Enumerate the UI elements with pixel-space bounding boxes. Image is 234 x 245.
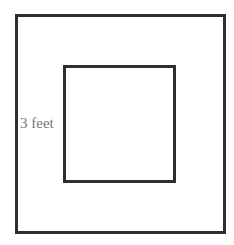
dimension-label: 3 feet <box>20 115 54 132</box>
inner-square <box>63 65 176 183</box>
